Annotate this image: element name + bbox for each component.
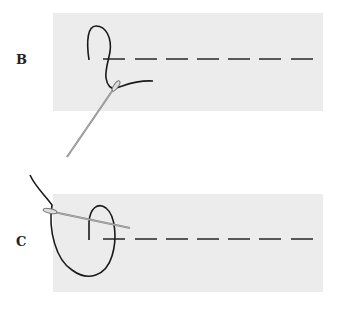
fabric-panel-b (53, 13, 323, 111)
stitch-diagram (0, 0, 337, 312)
